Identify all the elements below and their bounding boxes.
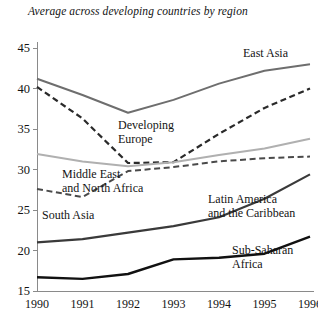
y-axis-tick-label: 45 [4, 42, 30, 54]
series-line-east-asia [37, 64, 310, 113]
x-axis-tick-label: 1991 [63, 298, 103, 310]
y-axis-tick-label: 20 [4, 245, 30, 257]
y-axis-tick-label: 25 [4, 204, 30, 216]
series-label-east-asia: East Asia [243, 46, 288, 60]
series-label-latin-america-and-the-caribbean: and the Caribbean [208, 206, 295, 220]
series-label-developing-europe: Developing [118, 118, 174, 132]
y-axis-tick-label: 40 [4, 83, 30, 95]
series-label-sub-saharan-africa: Africa [232, 257, 263, 271]
series-label-south-asia: South Asia [42, 208, 94, 222]
x-axis-tick-label: 1992 [108, 298, 148, 310]
y-axis-tick-label: 15 [4, 285, 30, 297]
series-line-middle-east-and-north-africa [37, 139, 310, 167]
series-label-sub-saharan-africa: Sub-Saharan [232, 243, 293, 257]
series-label-middle-east-and-north-africa: and North Africa [62, 181, 143, 195]
x-axis-tick-label: 1990 [17, 298, 57, 310]
y-axis-tick-label: 30 [4, 164, 30, 176]
x-axis-tick-label: 1995 [245, 298, 285, 310]
x-axis-tick-label: 1994 [199, 298, 239, 310]
x-axis-tick-label: 1996 [290, 298, 318, 310]
y-axis-tick-label: 35 [4, 123, 30, 135]
series-label-middle-east-and-north-africa: Middle East [62, 167, 120, 181]
x-axis-tick-label: 1993 [154, 298, 194, 310]
series-label-latin-america-and-the-caribbean: Latin America [208, 192, 277, 206]
chart-container: Average across developing countries by r… [0, 0, 318, 322]
series-label-developing-europe: Europe [118, 132, 153, 146]
